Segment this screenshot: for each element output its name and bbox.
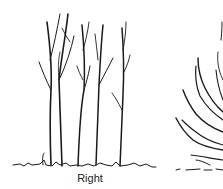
figure: Right [0, 0, 223, 189]
upright-shrub-drawing [0, 0, 223, 189]
figure-caption-left: Right [60, 172, 120, 184]
spreading-shrub-drawing [176, 22, 223, 170]
